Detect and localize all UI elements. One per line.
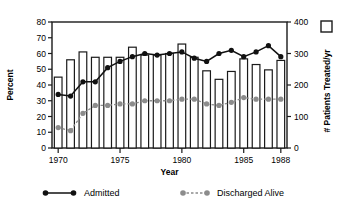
bar-1982 (203, 71, 211, 148)
x-tick-label-1970: 1970 (49, 155, 68, 165)
point-1976 (130, 54, 135, 59)
bar-1987 (265, 70, 273, 148)
bar-1984 (228, 71, 236, 148)
left-tick-label-60: 60 (37, 49, 47, 59)
x-axis-label: Year (161, 167, 180, 177)
bar-1976 (129, 47, 137, 148)
right-tick-label-200: 200 (294, 80, 308, 90)
right-axis: 0100200300400 (287, 17, 308, 153)
point-1984 (229, 48, 234, 53)
bar-1986 (252, 65, 260, 148)
x-tick-label-1988: 1988 (271, 155, 290, 165)
right-tick-label-0: 0 (294, 143, 299, 153)
legend-dot-discharged-left (180, 190, 186, 196)
chart-legend: AdmittedDischarged Alive (43, 188, 284, 198)
point-1971 (68, 128, 73, 133)
left-tick-label-0: 0 (41, 143, 46, 153)
legend-dot-discharged-right (204, 190, 210, 196)
x-tick-label-1985: 1985 (234, 155, 253, 165)
bar-1973 (91, 57, 99, 148)
right-axis-label: # Patients Treated/yr (322, 49, 332, 133)
point-1983 (216, 103, 221, 108)
chart-figure: 0102030405060708001002003004001970197519… (0, 0, 342, 210)
bar-1983 (215, 79, 223, 148)
point-1988 (278, 97, 283, 102)
point-1971 (68, 93, 73, 98)
point-1986 (253, 49, 258, 54)
point-1972 (80, 79, 85, 84)
point-1980 (179, 97, 184, 102)
point-1983 (216, 51, 221, 56)
bar-1980 (178, 44, 186, 148)
point-1978 (155, 52, 160, 57)
left-tick-label-20: 20 (37, 112, 47, 122)
point-1985 (241, 54, 246, 59)
point-1981 (192, 97, 197, 102)
left-tick-label-80: 80 (37, 17, 47, 27)
left-tick-label-70: 70 (37, 33, 47, 43)
point-1977 (142, 98, 147, 103)
left-axis: 01020304050607080 (37, 17, 52, 153)
point-1978 (155, 98, 160, 103)
point-1981 (192, 56, 197, 61)
bar-1971 (67, 60, 75, 148)
point-1975 (117, 101, 122, 106)
legend-dot-admitted-right (71, 190, 77, 196)
point-1972 (80, 111, 85, 116)
point-1973 (93, 103, 98, 108)
point-1986 (253, 97, 258, 102)
bar-1985 (240, 59, 248, 148)
bars-group (54, 44, 284, 148)
legend-label-admitted: Admitted (84, 188, 120, 198)
point-1973 (93, 79, 98, 84)
y-axis-label: Percent (5, 69, 15, 100)
point-1970 (56, 125, 61, 130)
x-tick-label-1980: 1980 (172, 155, 191, 165)
point-1979 (167, 98, 172, 103)
left-tick-label-10: 10 (37, 127, 47, 137)
point-1979 (167, 51, 172, 56)
point-1982 (204, 59, 209, 64)
bar-1981 (190, 57, 198, 148)
point-1975 (117, 59, 122, 64)
point-1977 (142, 51, 147, 56)
point-1982 (204, 101, 209, 106)
point-1984 (229, 100, 234, 105)
point-1974 (105, 103, 110, 108)
legend-label-discharged-alive: Discharged Alive (217, 188, 284, 198)
right-axis-legend (321, 21, 332, 32)
legend-dot-admitted-left (43, 190, 49, 196)
point-1988 (278, 54, 283, 59)
right-tick-label-400: 400 (294, 17, 308, 27)
point-1980 (179, 49, 184, 54)
point-1976 (130, 101, 135, 106)
left-tick-label-50: 50 (37, 64, 47, 74)
left-tick-label-40: 40 (37, 80, 47, 90)
point-1987 (266, 43, 271, 48)
x-axis: 19701975198019851988 (49, 148, 291, 165)
bar-1972 (79, 52, 87, 148)
x-tick-label-1975: 1975 (111, 155, 130, 165)
point-1987 (266, 97, 271, 102)
patients-treated-outcomes-chart: 0102030405060708001002003004001970197519… (0, 0, 342, 210)
point-1985 (241, 95, 246, 100)
right-tick-label-300: 300 (294, 49, 308, 59)
point-1974 (105, 65, 110, 70)
bar-1970 (54, 77, 62, 148)
bar-1988 (277, 60, 285, 148)
open-square-icon (321, 21, 332, 32)
right-tick-label-100: 100 (294, 112, 308, 122)
left-tick-label-30: 30 (37, 96, 47, 106)
point-1970 (56, 92, 61, 97)
